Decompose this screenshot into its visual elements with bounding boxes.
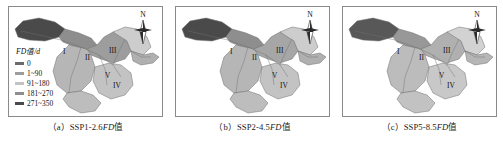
legend-label-0: 0 [27,59,31,69]
north-label: N [466,10,488,19]
legend-item-0: 0 [15,59,79,69]
region-label-II: II [252,53,257,62]
caption-suffix-a: 值 [114,122,123,132]
compass-icon [467,19,487,45]
region-class-271-350 [349,18,399,41]
map-canvas-c: I II III V IV N [343,7,496,116]
map-panel-c: I II III V IV N [342,6,497,117]
legend-label-1: 1~90 [27,69,42,79]
region-label-III: III [109,46,116,55]
legend-title-unit: 值/d [26,47,40,56]
map-panel-b: I II III V IV N [175,6,330,117]
region-label-V: V [439,71,444,80]
region-label-IV: IV [280,81,288,90]
region-class-271-350 [15,18,65,41]
region-label-II: II [85,53,90,62]
caption-scenario-b: SSP2-4.5 [237,122,270,132]
caption-variable-c: FD [437,122,449,132]
legend-item-1: 1~90 [15,69,79,79]
caption-scenario-c: SSP5-8.5 [404,122,437,132]
legend-swatch-2 [15,82,24,86]
legend-swatch-1 [15,72,24,76]
compass-icon [133,19,153,45]
region-label-V: V [272,71,277,80]
map-panel-a: I II III V IV FD值/d 0 1~90 91~180 [8,6,163,117]
caption-index-b: （b） [214,122,237,132]
legend-label-2: 91~180 [27,79,49,89]
legend-swatch-4 [15,102,24,106]
legend-label-3: 181~270 [27,89,53,99]
compass-icon [300,19,320,45]
legend-item-2: 91~180 [15,79,79,89]
north-label: N [299,10,321,19]
north-arrow-c: N [466,11,488,45]
caption-variable-b: FD [270,122,282,132]
legend-title-variable: FD [16,47,26,56]
north-label: N [132,10,154,19]
region-label-V: V [105,71,110,80]
caption-index-a: （a） [48,122,70,132]
caption-scenario-a: SSP1-2.6 [70,122,103,132]
north-arrow-a: N [132,11,154,45]
region-subbasin-south [397,91,435,113]
panel-caption-a: （a）SSP1-2.6FD值 [8,120,163,132]
caption-suffix-c: 值 [448,122,457,132]
legend-item-3: 181~270 [15,89,79,99]
north-arrow-b: N [299,11,321,45]
map-legend: FD值/d 0 1~90 91~180 181~270 [15,45,79,109]
legend-swatch-3 [15,92,24,96]
map-canvas-b: I II III V IV N [176,7,329,116]
caption-variable-a: FD [103,122,115,132]
region-subbasin-south [230,91,268,113]
region-label-I: I [397,47,399,56]
panel-caption-b: （b）SSP2-4.5FD值 [175,120,330,132]
map-canvas-a: I II III V IV FD值/d 0 1~90 91~180 [9,7,162,116]
region-label-II: II [419,53,424,62]
caption-suffix-b: 值 [282,122,291,132]
legend-item-4: 271~350 [15,99,79,109]
caption-index-c: （c） [382,122,404,132]
region-label-III: III [443,46,450,55]
legend-title: FD值/d [16,45,79,56]
region-class-271-350 [182,18,232,41]
legend-label-4: 271~350 [27,99,53,109]
region-label-III: III [276,46,283,55]
panel-caption-c: （c）SSP5-8.5FD值 [342,120,497,132]
legend-swatch-0 [15,62,24,66]
region-label-IV: IV [447,81,455,90]
region-label-IV: IV [113,81,121,90]
region-label-I: I [230,47,232,56]
figure-three-panel-fd-maps: I II III V IV FD值/d 0 1~90 91~180 [0,0,503,142]
